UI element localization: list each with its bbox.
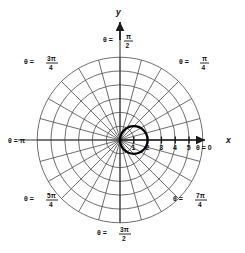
angle-label-theta-3pi-4-lead: θ = (24, 58, 34, 65)
angle-label-theta-7pi-4-lead: θ = (173, 195, 183, 202)
angle-label-theta-pi-4-numerator: π (202, 55, 207, 62)
angle-label-theta-3pi-2-numerator: 3π (120, 226, 129, 233)
x-tick-label-4: 4 (173, 144, 177, 151)
angle-label-theta-7pi-4: θ = 7π 4 (173, 192, 207, 208)
grid-spoke-150 (48, 99, 120, 140)
x-tick-label-1: 1 (132, 144, 136, 151)
grid-spoke-120 (79, 68, 120, 140)
angle-label-theta-pi: θ = π (8, 137, 26, 144)
angle-label-theta-pi-4-lead: θ = (179, 58, 189, 65)
x-tick-label-3: 3 (159, 144, 163, 151)
angle-label-theta-3pi-2-lead: θ = (97, 229, 107, 236)
grid-spoke-45 (120, 81, 179, 140)
grid-spoke-240 (79, 140, 120, 212)
polar-plot-svg: 1 2 3 4 5 x y θ = 0 θ = π θ = π 2 θ = π … (0, 0, 245, 253)
grid-spoke-210 (48, 140, 120, 181)
angle-label-theta-7pi-4-denominator: 4 (198, 201, 202, 208)
angle-label-theta-3pi-2: θ = 3π 2 (97, 226, 131, 242)
angle-label-theta-3pi-4: θ = 3π 4 (24, 55, 58, 71)
angle-label-theta-0: θ = 0 (196, 144, 212, 151)
angle-label-theta-3pi-4-denominator: 4 (49, 64, 53, 71)
angle-label-theta-pi-2-numerator: π (126, 33, 131, 40)
angle-label-theta-pi-2-denominator: 2 (126, 42, 130, 49)
x-tick-label-2: 2 (145, 144, 149, 151)
x-axis-tick-labels: 1 2 3 4 5 (132, 144, 191, 151)
grid-spoke-30 (120, 99, 192, 140)
x-tick-label-5: 5 (187, 144, 191, 151)
y-axis-name: y (115, 7, 122, 17)
x-axis-name: x (225, 135, 232, 145)
angle-label-theta-5pi-4-numerator: 5π (47, 192, 56, 199)
angle-label-theta-pi-4-denominator: 4 (202, 64, 206, 71)
angle-label-theta-3pi-4-numerator: 3π (47, 55, 56, 62)
angle-label-theta-5pi-4: θ = 5π 4 (24, 192, 58, 208)
angle-label-theta-pi-2: θ = π 2 (103, 33, 133, 49)
angle-label-theta-7pi-4-numerator: 7π (196, 192, 205, 199)
grid-spoke-225 (61, 140, 120, 199)
grid-spoke-135 (61, 81, 120, 140)
angle-label-theta-pi-2-lead: θ = (103, 36, 113, 43)
angle-label-theta-3pi-2-denominator: 2 (122, 235, 126, 242)
angle-label-theta-5pi-4-lead: θ = (24, 195, 34, 202)
polar-chart-figure: 1 2 3 4 5 x y θ = 0 θ = π θ = π 2 θ = π … (0, 0, 245, 253)
angle-label-theta-5pi-4-denominator: 4 (49, 201, 53, 208)
angle-label-theta-pi-4: θ = π 4 (179, 55, 209, 71)
